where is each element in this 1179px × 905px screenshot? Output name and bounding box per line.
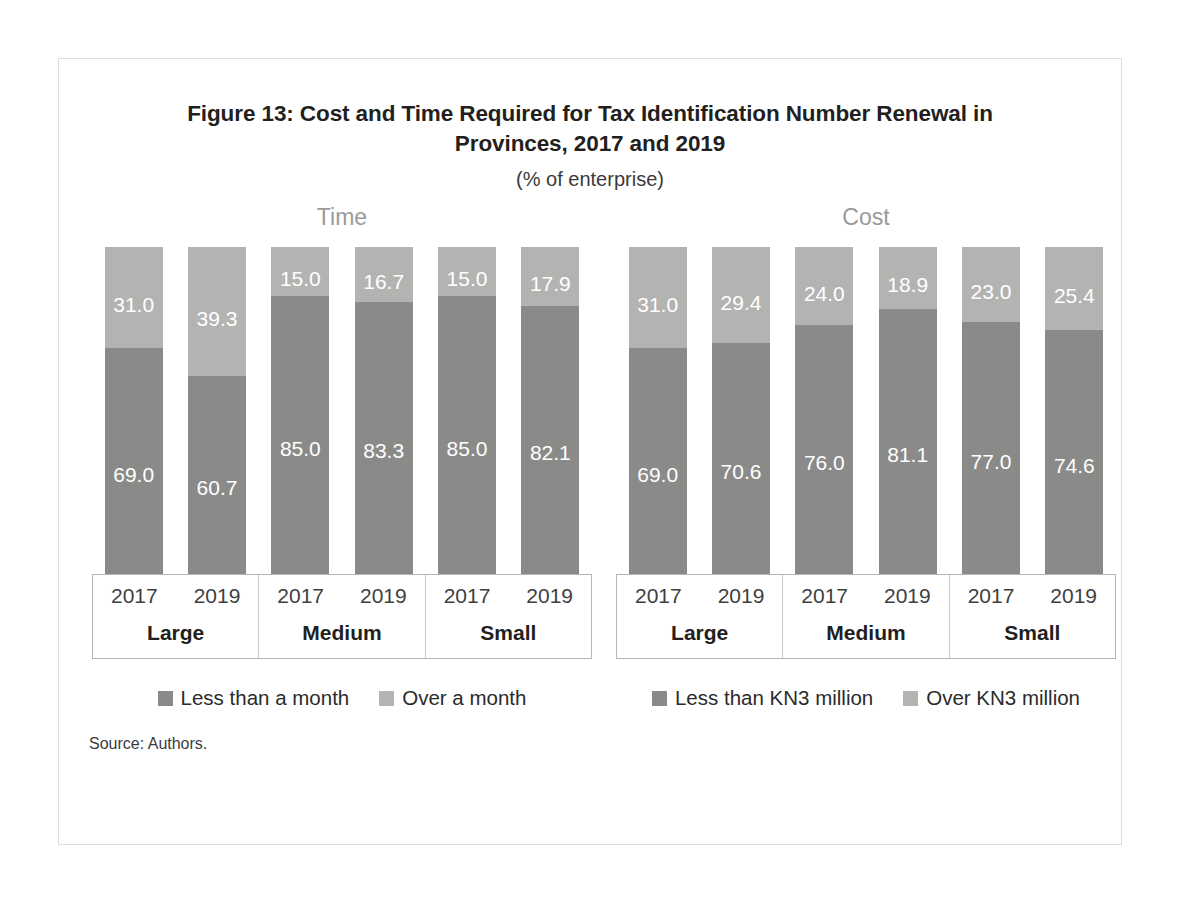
stacked-bar[interactable]: 31.0 69.0 (629, 247, 687, 574)
stacked-bar[interactable]: 29.4 70.6 (712, 247, 770, 574)
axis-year-label: 2019 (1032, 575, 1115, 615)
axis-year-label: 2019 (176, 575, 259, 615)
legend-item[interactable]: Less than KN3 million (652, 686, 873, 710)
bar-group-medium: 15.0 85.0 16.7 83.3 (259, 247, 426, 574)
bar-segment-label: 39.3 (197, 308, 238, 329)
legend-item[interactable]: Over KN3 million (903, 686, 1080, 710)
axis-size-label: Large (93, 615, 258, 658)
bar-segment-bottom: 60.7 (188, 376, 246, 574)
bar-group-large: 31.0 69.0 39.3 60.7 (92, 247, 259, 574)
bar-segment-label: 25.4 (1054, 285, 1095, 306)
panel-heading-cost: Cost (616, 199, 1116, 239)
bar-segment-label: 82.1 (530, 442, 571, 463)
bar-segment-label: 15.0 (280, 268, 321, 289)
bar-group-large: 31.0 69.0 29.4 70.6 (616, 247, 783, 574)
bar-segment-label: 15.0 (447, 268, 488, 289)
bar-segment-bottom: 82.1 (521, 306, 579, 574)
bar-segment-bottom: 76.0 (795, 325, 853, 574)
legend-label: Less than a month (181, 686, 350, 710)
bar-segment-label: 31.0 (113, 294, 154, 315)
legend-item[interactable]: Over a month (379, 686, 526, 710)
stacked-bar[interactable]: 17.9 82.1 (521, 247, 579, 574)
bar-segment-label: 70.6 (721, 461, 762, 482)
bar-slot: 31.0 69.0 (92, 247, 175, 574)
axis-year-row: 2017 2019 (783, 575, 948, 615)
axis-row: 2017 2019 Large 2017 2019 Medium 2017 20 (617, 575, 1115, 658)
bar-segment-top: 25.4 (1045, 247, 1103, 330)
legend-item[interactable]: Less than a month (158, 686, 350, 710)
axis-year-row: 2017 2019 (617, 575, 782, 615)
bar-segment-bottom: 77.0 (962, 322, 1020, 574)
axis-year-label: 2019 (342, 575, 425, 615)
bar-segment-label: 83.3 (363, 440, 404, 461)
bar-segment-label: 31.0 (637, 294, 678, 315)
legend-label: Less than KN3 million (675, 686, 873, 710)
axis-year-label: 2017 (426, 575, 509, 615)
legend-time: Less than a month Over a month (92, 686, 592, 710)
bar-slot: 31.0 69.0 (616, 247, 699, 574)
axis-year-row: 2017 2019 (950, 575, 1115, 615)
bar-segment-label: 77.0 (971, 451, 1012, 472)
bar-segment-top: 29.4 (712, 247, 770, 343)
bar-segment-bottom: 69.0 (105, 348, 163, 574)
plot-area-time: 31.0 69.0 39.3 60.7 15.0 85.0 (92, 247, 592, 574)
chart-panel-time: Time 31.0 69.0 39.3 60.7 (92, 199, 592, 710)
axis-year-label: 2019 (508, 575, 591, 615)
axis-group-large: 2017 2019 Large (93, 575, 259, 658)
axis-size-label: Large (617, 615, 782, 658)
legend-cost: Less than KN3 million Over KN3 million (616, 686, 1116, 710)
stacked-bar[interactable]: 15.0 85.0 (438, 247, 496, 574)
stacked-bar[interactable]: 18.9 81.1 (879, 247, 937, 574)
stacked-bar[interactable]: 16.7 83.3 (355, 247, 413, 574)
bar-segment-top: 17.9 (521, 247, 579, 306)
bar-slot: 25.4 74.6 (1033, 247, 1116, 574)
stacked-bar[interactable]: 23.0 77.0 (962, 247, 1020, 574)
title-block: Figure 13: Cost and Time Required for Ta… (59, 99, 1121, 191)
bar-slot: 18.9 81.1 (866, 247, 949, 574)
axis-size-label: Small (426, 615, 591, 658)
legend-swatch-icon (903, 691, 918, 706)
stacked-bar[interactable]: 24.0 76.0 (795, 247, 853, 574)
source-note: Source: Authors. (89, 735, 207, 753)
axis-size-label: Medium (259, 615, 424, 658)
bar-segment-bottom: 85.0 (271, 296, 329, 574)
bar-segment-label: 23.0 (971, 281, 1012, 302)
panel-heading-time: Time (92, 199, 592, 239)
bar-segment-label: 85.0 (447, 438, 488, 459)
stacked-bar[interactable]: 31.0 69.0 (105, 247, 163, 574)
axis-group-small: 2017 2019 Small (950, 575, 1115, 658)
bar-slot: 15.0 85.0 (425, 247, 508, 574)
axis-group-medium: 2017 2019 Medium (259, 575, 425, 658)
legend-label: Over a month (402, 686, 526, 710)
bar-segment-label: 69.0 (113, 464, 154, 485)
axis-year-label: 2017 (617, 575, 700, 615)
bar-segment-bottom: 85.0 (438, 296, 496, 574)
figure-subtitle: (% of enterprise) (59, 168, 1121, 191)
stacked-bar[interactable]: 39.3 60.7 (188, 247, 246, 574)
bar-segment-top: 16.7 (355, 247, 413, 302)
axis-year-label: 2017 (783, 575, 866, 615)
bar-segment-bottom: 83.3 (355, 302, 413, 574)
axis-year-label: 2017 (950, 575, 1033, 615)
axis-year-label: 2017 (93, 575, 176, 615)
bar-segment-top: 31.0 (105, 247, 163, 348)
bar-segment-label: 24.0 (804, 283, 845, 304)
axis-year-label: 2019 (700, 575, 783, 615)
axis-year-label: 2017 (259, 575, 342, 615)
axis-year-row: 2017 2019 (93, 575, 258, 615)
bar-segment-bottom: 74.6 (1045, 330, 1103, 574)
bar-segment-bottom: 70.6 (712, 343, 770, 574)
figure-title: Figure 13: Cost and Time Required for Ta… (59, 99, 1121, 159)
bar-group-small: 15.0 85.0 17.9 82.1 (425, 247, 592, 574)
bar-segment-label: 18.9 (887, 274, 928, 295)
bar-segment-label: 81.1 (887, 444, 928, 465)
stacked-bar[interactable]: 25.4 74.6 (1045, 247, 1103, 574)
bar-slot: 39.3 60.7 (175, 247, 258, 574)
axis-size-label: Medium (783, 615, 948, 658)
stacked-bar[interactable]: 15.0 85.0 (271, 247, 329, 574)
legend-label: Over KN3 million (926, 686, 1080, 710)
bar-segment-label: 29.4 (721, 292, 762, 313)
bar-segment-top: 15.0 (438, 247, 496, 296)
chart-panel-cost: Cost 31.0 69.0 29.4 70.6 (616, 199, 1116, 710)
axis-size-label: Small (950, 615, 1115, 658)
